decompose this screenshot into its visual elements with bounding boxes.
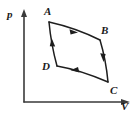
axis-label-pressure: p — [7, 9, 13, 20]
edge-b-to-c — [100, 40, 108, 82]
vertex-label-a: A — [44, 6, 51, 17]
vertex-label-d: D — [42, 61, 50, 72]
edge-a-to-b — [49, 22, 100, 40]
axis-label-volume: V — [121, 101, 128, 112]
edge-c-to-d — [57, 66, 108, 82]
arrow-c-to-d — [71, 67, 80, 72]
pv-cycle-figure: p V A B C D — [0, 0, 138, 120]
vertex-label-c: C — [110, 85, 117, 96]
diagram-canvas — [0, 0, 138, 120]
pressure-axis-arrowhead — [21, 9, 27, 17]
vertex-label-b: B — [101, 25, 108, 36]
